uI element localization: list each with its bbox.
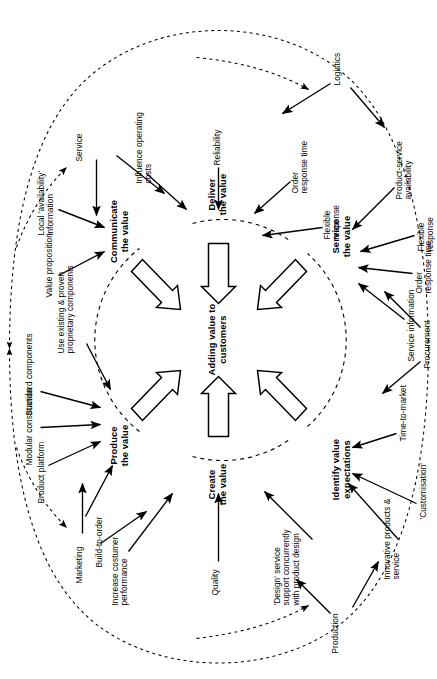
driver-design-service-support: 'Design' service support concurrently wi… xyxy=(272,529,300,605)
block-arrow-service xyxy=(257,259,306,309)
rotated-diagram-group: Adding value to customers Create the val… xyxy=(0,0,437,679)
driver-product-service-availability: Product-service availability xyxy=(394,141,413,199)
envelope-to-logistics-arrow xyxy=(196,57,308,89)
driver-order-response-time-deliver: Order response time xyxy=(290,140,309,193)
process-node-produce: Produce the value xyxy=(108,407,129,483)
function-label-procurement: Procurement xyxy=(422,309,431,379)
driver-influence-operating-costs: Influence operating costs xyxy=(134,111,153,183)
driver-time-to-market: Time-to-market xyxy=(398,384,407,441)
value-process-diagram: Adding value to customers Create the val… xyxy=(0,0,437,679)
driver-flexible-response-service: Flexible response xyxy=(416,216,435,251)
driver-value-proposition: Value proposition xyxy=(44,233,53,297)
block-arrow-identify xyxy=(257,370,306,420)
block-arrow-communicate xyxy=(131,259,180,309)
function-label-logistics: Logistics xyxy=(332,52,341,85)
center-node-label: Adding value to customers xyxy=(206,284,227,394)
driver-quality: Quality xyxy=(210,569,219,595)
driver-arrows-produce xyxy=(40,343,112,516)
driver-reliability: Reliability xyxy=(212,129,221,165)
process-node-deliver: Deliver the value xyxy=(206,155,227,233)
block-arrow-produce xyxy=(131,370,180,420)
driver-increase-costumer-performance: Increase costumer performance xyxy=(110,536,129,605)
driver-flexible-response-deliver: Flexible response xyxy=(322,204,341,239)
driver-customisation: 'Customisation' xyxy=(418,463,427,520)
driver-build-to-order: Build-to-order xyxy=(94,516,103,567)
envelope-to-production-arrow xyxy=(196,605,308,638)
driver-product-platform: Product platform xyxy=(36,441,45,503)
process-node-communicate: Communicate the value xyxy=(108,183,129,279)
driver-use-existing-proprietary: Use existing & proven proprietary compon… xyxy=(56,265,75,353)
function-label-production: Production xyxy=(330,613,339,653)
figure-canvas: Adding value to customers Create the val… xyxy=(0,0,437,679)
process-node-identify: Identify value expectations xyxy=(330,421,351,517)
driver-service-information: Service information xyxy=(406,289,415,361)
function-label-marketing: Marketing xyxy=(74,546,83,583)
driver-innovative-products-service: Innovative products & service xyxy=(382,498,401,579)
driver-standard-components: Standard components xyxy=(24,333,33,415)
driver-local-availability-information: Local 'availability' information xyxy=(36,170,55,235)
function-label-service: Service xyxy=(74,133,83,161)
process-node-create: Create the value xyxy=(206,447,227,521)
